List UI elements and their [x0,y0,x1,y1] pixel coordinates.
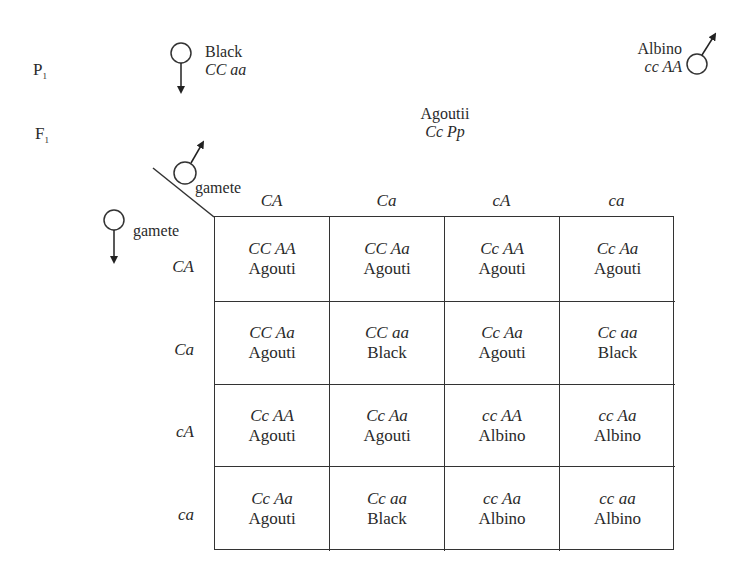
cell-genotype: Cc Aa [251,489,293,509]
cell-genotype: Cc aa [597,323,637,343]
grid-cell: cc aaAlbino [560,467,675,551]
f1-genotype: Cc Pp [400,123,490,141]
grid-cell: CC AaAgouti [215,302,330,385]
female-icon [171,43,191,90]
grid-cell: Cc aaBlack [330,467,445,551]
cell-phenotype: Black [367,343,407,363]
female-phenotype: Black [205,43,246,61]
grid-cell: CC aaBlack [330,302,445,385]
cell-phenotype: Agouti [248,509,295,529]
cell-phenotype: Agouti [478,259,525,279]
grid-cell: CC AaAgouti [330,217,445,302]
column-header: cA [444,191,559,211]
male-phenotype: Albino [620,40,682,58]
grid-cell: cc AAAlbino [445,385,560,467]
grid-cell: Cc aaBlack [560,302,675,385]
row-header: Ca [150,340,194,360]
cell-genotype: CC Aa [249,323,295,343]
cell-phenotype: Agouti [248,343,295,363]
cell-genotype: Cc Aa [481,323,523,343]
cell-genotype: Cc Aa [366,406,408,426]
cell-phenotype: Albino [594,426,641,446]
cell-genotype: cc Aa [483,489,521,509]
grid-cell: cc AaAlbino [560,385,675,467]
row-header: CA [150,257,194,277]
row-header: ca [150,505,194,525]
female-parent-label: Black CC aa [205,43,246,79]
grid-cell: Cc AaAgouti [215,467,330,551]
cell-genotype: cc AA [482,406,522,426]
f1-phenotype: Agoutii [400,105,490,123]
cell-phenotype: Albino [478,509,525,529]
cell-genotype: CC AA [248,239,295,259]
cell-phenotype: Agouti [248,426,295,446]
grid-cell: Cc AaAgouti [560,217,675,302]
cell-phenotype: Agouti [363,426,410,446]
cell-genotype: cc aa [599,489,635,509]
cell-genotype: Cc Aa [597,239,639,259]
male-parent-label: Albino cc AA [620,40,682,76]
grid-cell: Cc AaAgouti [445,302,560,385]
column-header: Ca [329,191,444,211]
cell-phenotype: Black [598,343,638,363]
cell-genotype: CC aa [365,323,409,343]
column-header: ca [559,191,674,211]
male-icon [687,36,714,74]
female-genotype: CC aa [205,61,246,79]
cell-genotype: Cc aa [367,489,407,509]
cell-phenotype: Agouti [478,343,525,363]
female-gamete-icon [104,210,124,260]
cell-genotype: cc Aa [599,406,637,426]
grid-cell: Cc AAAgouti [445,217,560,302]
grid-cell: Cc AaAgouti [330,385,445,467]
column-header: CA [214,191,329,211]
cell-genotype: Cc AA [250,406,294,426]
cell-phenotype: Agouti [248,259,295,279]
cell-phenotype: Agouti [363,259,410,279]
cell-genotype: Cc AA [480,239,524,259]
cell-phenotype: Agouti [594,259,641,279]
male-gamete-icon [174,144,202,184]
cell-genotype: CC Aa [364,239,410,259]
male-genotype: cc AA [620,58,682,76]
cell-phenotype: Black [367,509,407,529]
grid-cell: CC AAAgouti [215,217,330,302]
cell-phenotype: Albino [478,426,525,446]
row-header: cA [150,422,194,442]
grid-cell: Cc AAAgouti [215,385,330,467]
female-gamete-label: gamete [133,222,179,240]
cell-phenotype: Albino [594,509,641,529]
grid-cell: cc AaAlbino [445,467,560,551]
f1-label: Agoutii Cc Pp [400,105,490,141]
punnett-square: CC AAAgouti CC AaAgouti Cc AAAgouti Cc A… [214,216,674,550]
